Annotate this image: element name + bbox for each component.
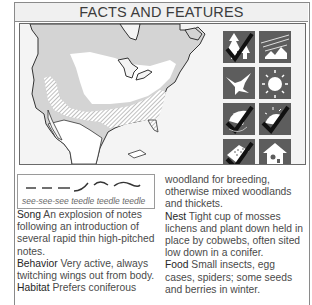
cup-nest-check-icon bbox=[223, 103, 255, 135]
fact-nest: Nest Tight cup of mosses lichens and pla… bbox=[165, 211, 305, 260]
habitat-label: Habitat bbox=[17, 282, 50, 293]
nest-text: Tight cup of mosses lichens and plant do… bbox=[165, 211, 303, 259]
song-label: Song bbox=[17, 209, 41, 220]
sun-icon bbox=[259, 67, 291, 99]
florida bbox=[148, 120, 158, 132]
facts-left-column: Song An explosion of notes following an … bbox=[17, 209, 157, 294]
song-caption: see-see-see teedle teedle teedle bbox=[22, 196, 145, 206]
facts-right-column: woodland for breeding, otherwise mixed w… bbox=[165, 174, 305, 296]
sonogram-icon bbox=[18, 175, 154, 195]
range-map bbox=[19, 23, 306, 165]
nest-sun-check-icon bbox=[259, 103, 291, 135]
habitat-text: Prefers coniferous bbox=[50, 282, 136, 293]
food-check-icon bbox=[223, 139, 255, 165]
panel-title: FACTS AND FEATURES bbox=[15, 3, 308, 22]
open-country-icon bbox=[259, 31, 291, 63]
behavior-label: Behavior bbox=[17, 258, 58, 269]
fact-behavior: Behavior Very active, always twitching w… bbox=[17, 258, 157, 282]
fact-song: Song An explosion of notes following an … bbox=[17, 209, 157, 258]
fact-habitat: Habitat Prefers coniferous bbox=[17, 282, 157, 294]
fact-habitat-continued: woodland for breeding, otherwise mixed w… bbox=[165, 174, 305, 211]
cuba bbox=[128, 150, 146, 158]
bird-flight-icon bbox=[223, 67, 255, 99]
birdhouse-icon bbox=[259, 139, 291, 165]
song-sonogram-box: see-see-see teedle teedle teedle bbox=[17, 174, 155, 209]
nest-label: Nest bbox=[165, 211, 186, 222]
food-label: Food bbox=[165, 259, 188, 270]
fact-food: Food Small insects, egg cases, spiders; … bbox=[165, 259, 305, 296]
coniferous-forest-check-icon bbox=[223, 31, 255, 63]
